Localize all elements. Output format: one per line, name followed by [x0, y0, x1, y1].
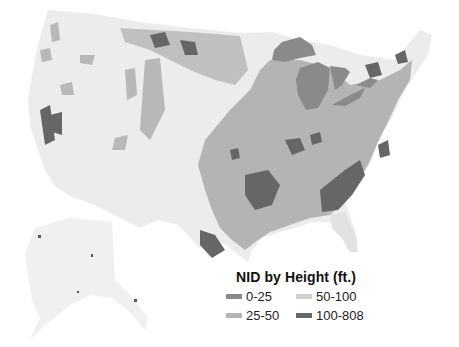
- map-legend: NID by Height (ft.) 0-25 50-100 25-50 10…: [222, 269, 422, 323]
- alaska-inset: [25, 218, 148, 340]
- legend-label: 25-50: [246, 308, 279, 323]
- legend-label: 0-25: [246, 289, 272, 304]
- legend-label: 100-808: [316, 308, 364, 323]
- swatch-25-50: [226, 313, 242, 318]
- legend-title: NID by Height (ft.): [236, 269, 422, 285]
- legend-item-0-25: 0-25: [226, 289, 296, 304]
- legend-label: 50-100: [316, 289, 356, 304]
- swatch-50-100: [296, 294, 312, 299]
- legend-item-50-100: 50-100: [296, 289, 396, 304]
- swatch-0-25: [226, 294, 242, 299]
- swatch-100-808: [296, 313, 312, 318]
- legend-items: 0-25 50-100 25-50 100-808: [226, 289, 422, 323]
- legend-item-100-808: 100-808: [296, 308, 396, 323]
- legend-item-25-50: 25-50: [226, 308, 296, 323]
